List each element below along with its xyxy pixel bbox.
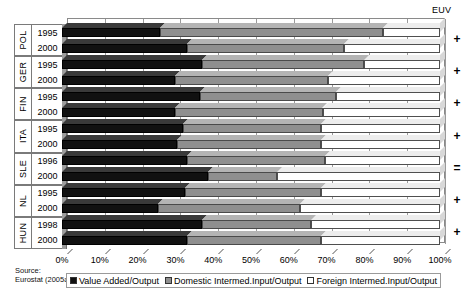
bar-segment-for[interactable]: [321, 236, 440, 245]
x-axis-tick-label: 0%: [45, 255, 79, 265]
bar-segment-dom[interactable]: [202, 60, 365, 69]
bar-segment-dom[interactable]: [158, 204, 300, 213]
bar-segment-top-face: [321, 231, 445, 236]
bar-segment-for[interactable]: [328, 76, 440, 85]
bar-segment-for[interactable]: [323, 108, 440, 117]
country-label-text: FIN: [18, 97, 28, 112]
year-label: 1995: [32, 89, 63, 104]
x-axis-tick: [369, 249, 375, 254]
x-axis-tick-label: 20%: [121, 255, 155, 265]
bar-segment-va[interactable]: [62, 44, 187, 53]
bar-segment-dom[interactable]: [187, 156, 325, 165]
bar-segment-va[interactable]: [62, 156, 187, 165]
bar-segment-top-face: [344, 39, 445, 44]
bar-segment-va[interactable]: [62, 76, 175, 85]
bar-segment-dom[interactable]: [175, 76, 328, 85]
bar-segment-dom[interactable]: [160, 28, 383, 37]
bar-segment-top-face: [321, 135, 445, 140]
bar-segment-for[interactable]: [277, 172, 440, 181]
country-label: GER: [15, 57, 32, 87]
bar-segment-top-face: [364, 55, 445, 60]
bar-segment-va[interactable]: [62, 92, 200, 101]
country-label: SLE: [15, 154, 32, 184]
bar-segment-top-face: [62, 23, 165, 28]
bar-segment-top-face: [62, 87, 205, 92]
euv-marker-hun: +: [444, 225, 470, 239]
y-axis-group-pol: POL19952000: [14, 24, 62, 56]
bar-segment-dom[interactable]: [208, 172, 278, 181]
country-label-text: ITA: [18, 129, 28, 143]
x-axis-tick-label: 50%: [234, 255, 268, 265]
legend-item[interactable]: Foreign Intermed.Input/Output: [307, 276, 437, 286]
bar-segment-for[interactable]: [311, 220, 440, 229]
bar-segment-dom[interactable]: [177, 140, 321, 149]
year-label: 1995: [32, 57, 63, 72]
x-axis: 0%10%20%30%40%50%60%70%80%90%100%: [62, 249, 445, 265]
bar-segment-va[interactable]: [62, 220, 202, 229]
year-label: 2000: [32, 136, 63, 151]
y-axis-group-ita: ITA19952000: [14, 120, 62, 152]
x-axis-tick-label: 60%: [272, 255, 306, 265]
country-label-text: HUN: [18, 223, 28, 243]
bar-segment-va[interactable]: [62, 108, 175, 117]
bar-segment-va[interactable]: [62, 204, 158, 213]
y-axis-labels: POL19952000GER19952000FIN19952000ITA1995…: [14, 24, 62, 249]
bar-segment-for[interactable]: [300, 204, 440, 213]
bar-segment-top-face: [62, 39, 192, 44]
country-label-text: GER: [18, 62, 28, 82]
bar-segment-top-face: [185, 183, 326, 188]
bar-segment-va[interactable]: [62, 188, 185, 197]
euv-column-header: EUV: [432, 5, 451, 15]
legend-label: Foreign Intermed.Input/Output: [316, 276, 437, 286]
bar-segment-dom[interactable]: [187, 236, 321, 245]
bar-segment-top-face: [175, 103, 327, 108]
bar-segment-top-face: [62, 119, 188, 124]
bar-segment-for[interactable]: [336, 92, 440, 101]
x-axis-tick: [332, 249, 338, 254]
x-axis-tick-label: 100%: [423, 255, 457, 265]
bar-segment-top-face: [323, 103, 445, 108]
bar-segment-for[interactable]: [325, 156, 440, 165]
bar-segment-va[interactable]: [62, 124, 183, 133]
legend-item[interactable]: Domestic Intermed.Input/Output: [165, 276, 302, 286]
y-axis-group-fin: FIN19952000: [14, 88, 62, 120]
x-axis-tick-label: 10%: [83, 255, 117, 265]
year-label: 2000: [32, 72, 63, 87]
bar-segment-va[interactable]: [62, 236, 187, 245]
bar-segment-top-face: [62, 71, 180, 76]
x-axis-tick-label: 40%: [196, 255, 230, 265]
bar-segment-for[interactable]: [364, 60, 440, 69]
bar-segment-va[interactable]: [62, 60, 202, 69]
bar-segment-va[interactable]: [62, 28, 160, 37]
x-axis-tick: [445, 249, 451, 254]
x-axis-tick-label: 80%: [347, 255, 381, 265]
euv-marker-pol: +: [444, 32, 470, 46]
bar-segment-dom[interactable]: [200, 92, 336, 101]
bar-segment-va[interactable]: [62, 172, 208, 181]
bar-segment-dom[interactable]: [187, 44, 344, 53]
bar-segment-dom[interactable]: [175, 108, 322, 117]
bar-segment-for[interactable]: [383, 28, 440, 37]
legend-item[interactable]: Value Added/Output: [70, 276, 159, 286]
bar-segment-dom[interactable]: [185, 188, 321, 197]
bar-segment-dom[interactable]: [202, 220, 312, 229]
country-label: ITA: [15, 121, 32, 151]
x-axis-tick-label: 90%: [385, 255, 419, 265]
bar-segment-dom[interactable]: [183, 124, 321, 133]
bar-segment-va[interactable]: [62, 140, 177, 149]
bar-segment-for[interactable]: [321, 188, 440, 197]
bar-segment-top-face: [311, 215, 445, 220]
bar-segment-top-face: [187, 151, 330, 156]
y-axis-group-sle: SLE19962000: [14, 153, 62, 185]
bar-segment-top-face: [62, 231, 192, 236]
bar-segment-for[interactable]: [321, 140, 440, 149]
euv-marker-sle: =: [444, 161, 470, 175]
bar-segment-top-face: [62, 103, 180, 108]
bar-segment-top-face: [300, 199, 445, 204]
bar-segment-for[interactable]: [321, 124, 440, 133]
legend-label: Domestic Intermed.Input/Output: [174, 276, 302, 286]
bar-segment-top-face: [62, 55, 207, 60]
y-axis-group-nl: NL19952000: [14, 185, 62, 217]
bar-segment-for[interactable]: [344, 44, 440, 53]
bar-segment-top-face: [208, 167, 283, 172]
